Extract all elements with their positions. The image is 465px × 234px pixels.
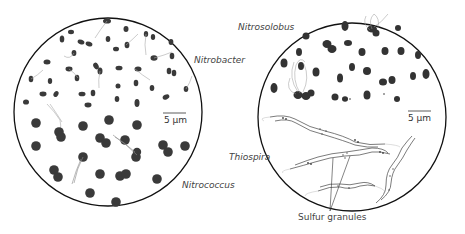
label-nitrosolobus: Nitrosolobus bbox=[238, 22, 294, 32]
left-microscope-field bbox=[14, 18, 202, 207]
microscopy-diagram bbox=[0, 0, 465, 234]
label-nitrococcus: Nitrococcus bbox=[182, 180, 235, 190]
scale-label-right: 5 µm bbox=[408, 113, 431, 123]
label-thiospira: Thiospira bbox=[229, 152, 270, 162]
label-nitrobacter: Nitrobacter bbox=[194, 55, 245, 65]
label-sulfur-granules: Sulfur granules bbox=[298, 212, 366, 222]
scale-label-left: 5 µm bbox=[164, 115, 187, 125]
